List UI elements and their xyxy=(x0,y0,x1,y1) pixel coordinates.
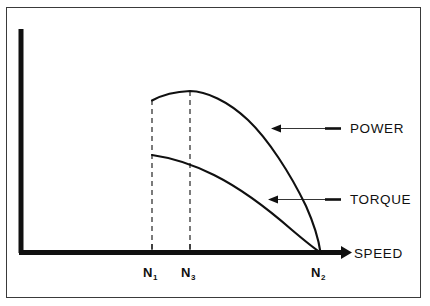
x-tick-label-n1-base: N xyxy=(143,265,152,280)
torque-leader-arrow-icon xyxy=(268,196,278,204)
x-tick-label-n3: N3 xyxy=(181,265,195,280)
x-tick-label-n3-sub: 3 xyxy=(191,273,195,282)
torque-curve xyxy=(152,155,321,253)
x-tick-label-n3-base: N xyxy=(181,265,190,280)
x-tick-label-n1: N1 xyxy=(143,265,157,280)
power-series-label: POWER xyxy=(350,121,404,136)
power-leader-arrow-icon xyxy=(271,125,281,133)
x-tick-label-n2-sub: 2 xyxy=(321,273,325,282)
x-tick-label-n2-base: N xyxy=(311,265,320,280)
torque-series-label: TORQUE xyxy=(350,192,411,207)
x-tick-label-n1-sub: 1 xyxy=(153,273,157,282)
x-axis-title: SPEED xyxy=(354,246,403,261)
chart-figure: SPEED POWER TORQUE N1 N3 N2 xyxy=(0,0,430,306)
power-curve xyxy=(152,91,321,253)
x-tick-label-n2: N2 xyxy=(311,265,325,280)
x-axis-arrow-icon xyxy=(341,246,352,259)
